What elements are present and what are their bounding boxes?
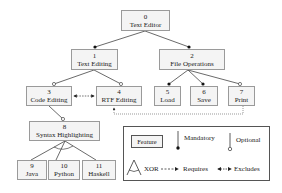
feature-node-7: 7 Print (228, 86, 255, 106)
node-id: 6 (202, 88, 206, 96)
node-label: Text Editing (77, 60, 112, 68)
edge-1-4 (94, 70, 123, 86)
feature-node-5: 5 Load (154, 86, 181, 106)
node-id: 8 (63, 123, 67, 131)
node-id: 5 (166, 88, 170, 96)
node-label: Java (26, 170, 38, 178)
optional-icon (228, 133, 231, 151)
feature-node-1: 1 Text Editing (71, 49, 118, 70)
node-label: Python (54, 170, 74, 178)
node-label: Haskell (88, 170, 109, 178)
node-label: Load (160, 96, 174, 104)
node-label: Text Editor (130, 21, 162, 29)
node-id: 4 (117, 88, 121, 96)
edge-0-2 (145, 31, 191, 49)
node-id: 10 (61, 162, 68, 170)
legend: Feature Mandatory Optional XOR Requires … (123, 126, 270, 181)
node-id: 11 (96, 162, 103, 170)
node-id: 9 (30, 162, 34, 170)
node-label: Print (235, 96, 249, 104)
node-label: Save (197, 96, 211, 104)
node-label: Code Editing (30, 96, 67, 104)
legend-requires-label: Requires (183, 165, 208, 173)
node-label: Syntax Highlighting (36, 131, 93, 139)
legend-excludes-label: Excludes (234, 165, 260, 173)
feature-node-8: 8 Syntax Highlighting (29, 121, 100, 141)
node-label: File Operations (170, 60, 213, 68)
xor-icon (127, 160, 141, 175)
node-id: 7 (240, 88, 244, 96)
edge-1-3 (52, 70, 94, 86)
node-id: 3 (47, 88, 51, 96)
feature-node-10: 10 Python (48, 160, 80, 180)
node-id: 0 (144, 13, 148, 21)
feature-node-3: 3 Code Editing (26, 86, 72, 106)
feature-node-4: 4 RTF Editing (96, 86, 142, 106)
legend-optional-label: Optional (236, 136, 261, 144)
edge-2-5 (167, 70, 188, 86)
node-id: 2 (190, 52, 194, 60)
feature-node-11: 11 Haskell (82, 160, 116, 180)
mandatory-icon (176, 131, 179, 150)
legend-mandatory-label: Mandatory (184, 134, 215, 142)
feature-node-2: 2 File Operations (159, 49, 225, 70)
edge-3-8 (49, 106, 65, 121)
node-label: RTF Editing (102, 96, 137, 104)
feature-node-0: 0 Text Editor (121, 10, 170, 31)
node-id: 1 (93, 52, 97, 60)
edge-0-1 (93, 31, 145, 49)
edge-8-xor (31, 141, 96, 160)
feature-node-6: 6 Save (190, 86, 218, 106)
constraint-requires-7-4 (114, 106, 243, 114)
feature-node-9: 9 Java (17, 160, 47, 180)
legend-xor-label: XOR (144, 165, 159, 173)
